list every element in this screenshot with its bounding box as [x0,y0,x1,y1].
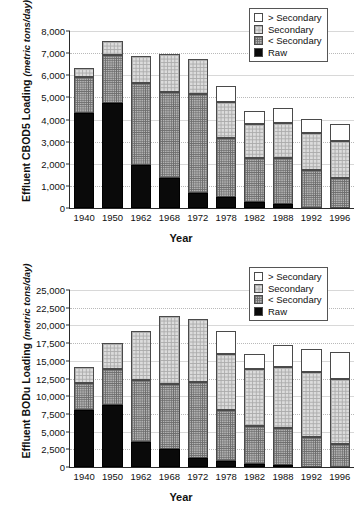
bar-segment-lt [273,428,293,465]
y-axis-title-unit: (metric tons/day) [21,0,32,77]
bar-segment-lt [74,77,94,113]
y-axis-tick-label: 20,000 [36,320,70,331]
bar-segment-raw [159,178,179,208]
bar-segment-raw [102,405,122,467]
y-axis-tick-label: 12,500 [36,373,70,384]
bar-segment-sec [216,354,236,410]
x-axis-tick-label-1962: 1962 [130,471,151,482]
bar-segment-lt [301,170,321,208]
x-axis-tick-label-1978: 1978 [216,212,237,223]
bar-segment-sec [188,59,208,94]
bar-segment-sec [301,133,321,170]
x-axis-tick-label-1968: 1968 [159,212,180,223]
x-axis-tick-label-1996: 1996 [329,212,350,223]
bar-segment-raw [216,197,236,208]
y-axis-tick-label: 3,000 [41,136,70,147]
bar-segment-lt [159,92,179,178]
bar-segment-raw [273,465,293,467]
bar-1978 [216,331,236,467]
legend-item-lt: < Secondary [254,35,322,47]
bar-segment-sec [102,41,122,56]
bar-segment-sec [131,331,151,380]
x-axis-tick-label-1950: 1950 [102,212,123,223]
gridline [70,325,354,327]
y-axis-tick-label: 7,000 [41,48,70,59]
bar-1996 [330,352,350,467]
bar-segment-raw [244,464,264,467]
legend-label-sec: Secondary [268,24,313,36]
y-axis-tick-label: 22,500 [36,302,70,313]
x-axis-tick-label-1940: 1940 [74,212,95,223]
bar-segment-lt [131,380,151,442]
x-axis-tick-label-1988: 1988 [272,212,293,223]
bar-segment-lt [273,158,293,204]
legend-label-gt: > Secondary [268,12,322,24]
x-axis-tick-label-1982: 1982 [244,212,265,223]
bar-1950 [102,343,122,467]
legend-item-sec: Secondary [254,24,322,36]
bar-1988 [273,345,293,467]
bar-1996 [330,123,350,208]
bar-1940 [74,68,94,208]
bar-1992 [301,349,321,467]
x-axis-tick-label-1988: 1988 [272,471,293,482]
legend-swatch-raw [254,307,263,316]
bar-segment-raw [188,193,208,208]
bar-segment-lt [188,382,208,458]
bar-segment-sec [244,124,264,158]
y-axis-tick-label: 2,500 [41,444,70,455]
bar-segment-lt [74,383,94,410]
legend-swatch-sec [254,25,263,34]
bar-segment-lt [330,178,350,208]
x-axis-tick-label-1982: 1982 [244,471,265,482]
x-axis-tick-label-1940: 1940 [74,471,95,482]
bar-1950 [102,41,122,208]
bar-segment-sec [301,372,321,437]
bar-segment-raw [216,461,236,467]
bar-segment-raw [159,449,179,467]
legend-item-lt: < Secondary [254,294,322,306]
bar-segment-sec [330,379,350,444]
bar-1968 [159,316,179,468]
bar-segment-sec [74,68,94,77]
legend-swatch-raw [254,48,263,57]
bar-segment-sec [102,343,122,369]
bar-segment-raw [273,204,293,208]
bar-segment-gt [273,108,293,123]
y-axis-title-main: Effluent CBOD5 Loading [20,80,32,203]
bar-segment-gt [330,124,350,142]
bar-segment-raw [131,442,151,467]
y-axis-tick-label: 5,000 [41,426,70,437]
legend-label-gt: > Secondary [268,271,322,283]
bar-segment-lt [244,426,264,464]
legend-swatch-lt [254,295,263,304]
bar-segment-lt [131,83,151,165]
bar-1988 [273,108,293,208]
bar-segment-lt [188,94,208,194]
y-axis-tick-label: 8,000 [41,26,70,37]
legend-item-raw: Raw [254,306,322,318]
y-axis-tick-label: 10,000 [36,391,70,402]
y-axis-tick-label: 25,000 [36,285,70,296]
bar-1968 [159,54,179,208]
bar-segment-raw [188,458,208,467]
chart-bodu-legend: > SecondarySecondary< SecondaryRaw [249,267,328,321]
bar-segment-gt [244,354,264,368]
y-axis-tick-label: 1,000 [41,180,70,191]
bar-1962 [131,331,151,467]
legend-label-raw: Raw [268,47,287,59]
bar-segment-sec [159,316,179,384]
bar-segment-raw [131,165,151,208]
y-axis-tick-label: 7,500 [41,408,70,419]
chart-bodu-x-axis-title: Year [0,491,362,503]
bar-1972 [188,319,208,467]
x-axis-tick-label-1978: 1978 [216,471,237,482]
y-axis-tick-label: 2,000 [41,158,70,169]
chart-cbod5-legend: > SecondarySecondary< SecondaryRaw [249,8,328,62]
bar-segment-sec [74,367,94,383]
legend-item-gt: > Secondary [254,12,322,24]
bar-segment-lt [301,437,321,467]
x-axis-tick-label-1992: 1992 [301,212,322,223]
bar-segment-lt [216,138,236,197]
legend-item-gt: > Secondary [254,271,322,283]
